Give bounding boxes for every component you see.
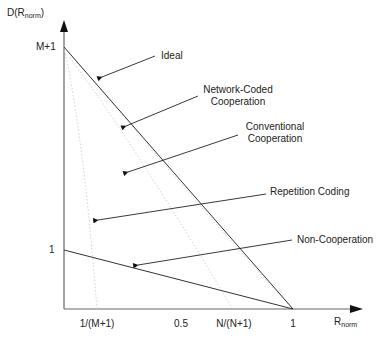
x-axis-arrow-icon [350, 305, 363, 313]
annotation-conventional-line1: Conventional [240, 121, 310, 133]
annotation-non-cooperation: Non-Cooperation [297, 234, 373, 246]
x-tick-n-over-n-plus-1: N/(N+1) [209, 318, 259, 330]
y-axis-label-sub: norm [25, 12, 41, 19]
x-axis-label: Rnorm [334, 316, 357, 329]
chart-canvas [0, 0, 388, 343]
x-axis-label-sub: norm [341, 321, 357, 328]
annotation-network-coded: Network-Coded Cooperation [196, 84, 280, 108]
non-cooperation-arrow [138, 240, 292, 265]
annotation-network-coded-line2: Cooperation [196, 96, 280, 108]
annotation-conventional-line2: Cooperation [240, 133, 310, 145]
y-axis-label-main: D(R [7, 7, 25, 18]
repetition-curve [64, 47, 97, 309]
y-tick-m-plus-1: M+1 [36, 41, 56, 53]
x-tick-1-over-m-plus-1: 1/(M+1) [67, 318, 127, 330]
x-tick-0-5: 0.5 [166, 318, 196, 330]
y-axis [60, 20, 68, 309]
x-axis [64, 305, 363, 313]
repetition-arrow [98, 194, 266, 220]
y-tick-1: 1 [49, 244, 55, 256]
ideal-arrow [102, 56, 155, 77]
y-axis-arrow-icon [60, 20, 68, 32]
annotation-ideal: Ideal [161, 50, 183, 62]
annotation-repetition-coding: Repetition Coding [270, 186, 350, 198]
annotation-conventional: Conventional Cooperation [240, 121, 310, 145]
x-tick-1: 1 [283, 318, 303, 330]
annotation-network-coded-line1: Network-Coded [196, 84, 280, 96]
y-axis-label: D(Rnorm) [7, 7, 44, 20]
conventional-arrow [128, 135, 238, 172]
y-axis-label-close: ) [41, 7, 44, 18]
network-coded-arrow [126, 96, 198, 126]
